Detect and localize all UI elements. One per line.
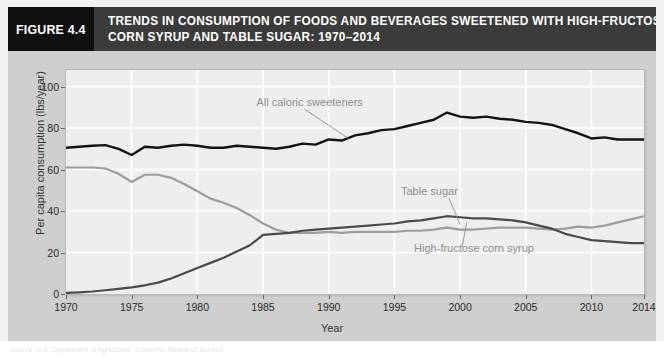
source-strip: Source: U.S. Department of Agriculture, … xyxy=(0,341,664,360)
plot-area: All caloric sweetenersTable sugarHigh-fr… xyxy=(65,69,645,295)
figure-header-bar: FIGURE 4.4 TRENDS IN CONSUMPTION OF FOOD… xyxy=(8,7,656,51)
x-tick-label-1980: 1980 xyxy=(186,301,209,313)
y-tick-label-0: 0 xyxy=(29,288,59,300)
chart-svg xyxy=(66,70,644,294)
series-line-table-sugar xyxy=(66,167,644,232)
source-note: Source: U.S. Department of Agriculture, … xyxy=(10,346,225,353)
y-tick-label-40: 40 xyxy=(29,205,59,217)
series-lines xyxy=(66,113,644,293)
x-tick-label-1990: 1990 xyxy=(317,301,340,313)
series-line-high-fructose-corn-syrup xyxy=(66,216,644,293)
x-tick-label-2010: 2010 xyxy=(580,301,603,313)
figure-title-line-1: TRENDS IN CONSUMPTION OF FOODS AND BEVER… xyxy=(108,13,656,29)
x-tick-label-2014: 2014 xyxy=(632,301,655,313)
y-tick-label-80: 80 xyxy=(29,122,59,134)
series-line-all-caloric-sweeteners xyxy=(66,113,644,156)
leader-line-3 xyxy=(462,222,467,247)
y-axis-title: Per capita consumption (lbs/year) xyxy=(34,43,46,263)
figure-container: FIGURE 4.4 TRENDS IN CONSUMPTION OF FOOD… xyxy=(0,0,664,360)
figure-title-line-2: CORN SYRUP AND TABLE SUGAR: 1970–2014 xyxy=(108,29,656,45)
y-tick-label-20: 20 xyxy=(29,247,59,259)
gridlines xyxy=(66,70,644,294)
x-tick-label-1995: 1995 xyxy=(383,301,406,313)
x-tick-label-2000: 2000 xyxy=(448,301,471,313)
y-tick-label-60: 60 xyxy=(29,164,59,176)
x-tick-label-1985: 1985 xyxy=(251,301,274,313)
x-tick-label-2005: 2005 xyxy=(514,301,537,313)
figure-title-block: TRENDS IN CONSUMPTION OF FOODS AND BEVER… xyxy=(94,7,656,51)
y-tick-label-100: 100 xyxy=(29,81,59,93)
leader-line-1 xyxy=(304,109,348,138)
x-tick-label-1975: 1975 xyxy=(120,301,143,313)
x-axis-title: Year xyxy=(8,322,656,334)
figure-number-block: FIGURE 4.4 xyxy=(8,7,94,51)
x-tick-label-1970: 1970 xyxy=(54,301,77,313)
figure-body: Per capita consumption (lbs/year) 020406… xyxy=(8,51,656,341)
figure-number-label: FIGURE 4.4 xyxy=(16,22,85,37)
